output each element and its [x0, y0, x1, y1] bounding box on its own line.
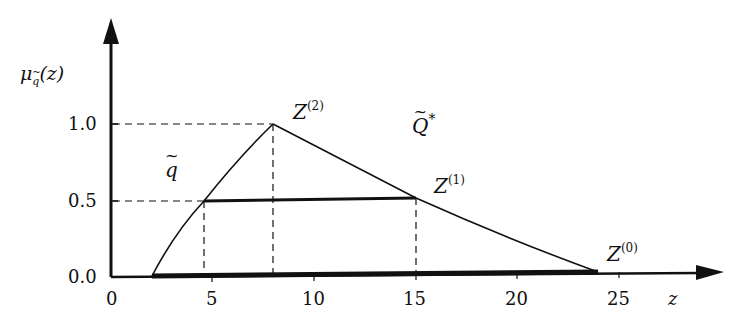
point-label-z0: Z(0): [607, 242, 638, 264]
x-tick-label-25: 25: [607, 290, 630, 308]
y-tick-label-05: 0.5: [68, 192, 97, 210]
alpha-cut-05: [204, 198, 416, 201]
support-band: [152, 272, 598, 276]
x-tick-label-20: 20: [505, 290, 528, 308]
x-axis-label: z: [668, 290, 677, 308]
x-tick-label-15: 15: [403, 290, 426, 308]
y-axis-arrow-icon: [103, 18, 119, 44]
y-axis-label: μ~q(z): [20, 64, 64, 87]
q-star-label: ~Q*: [412, 112, 435, 136]
point-label-z1: Z(1): [434, 174, 465, 196]
x-tick-label-5: 5: [206, 290, 217, 308]
x-tick-label-10: 10: [302, 290, 325, 308]
y-tick-label-1: 1.0: [68, 115, 97, 133]
point-label-z2: Z(2): [293, 100, 324, 122]
y-tick-label-0: 0.0: [68, 268, 97, 286]
x-tick-label-0: 0: [106, 290, 117, 308]
q-tilde-label: ~q: [165, 160, 178, 180]
membership-diagram: [0, 0, 755, 333]
x-axis-arrow-icon: [696, 265, 724, 280]
